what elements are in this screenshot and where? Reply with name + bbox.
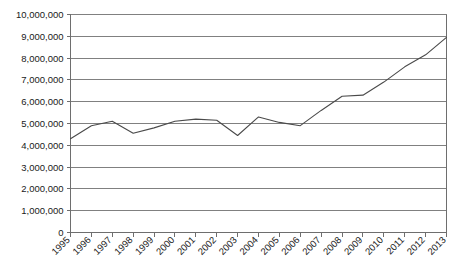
x-axis-tick-label: 2010	[363, 234, 386, 257]
line-chart: 10,000,0009,000,0008,000,0007,000,0006,0…	[0, 0, 461, 273]
x-axis-tick-label: 2009	[342, 234, 365, 257]
x-axis-tick-label: 2011	[384, 234, 406, 256]
x-axis-tick-label: 1999	[133, 234, 156, 257]
y-axis-tick-labels: 10,000,0009,000,0008,000,0007,000,0006,0…	[16, 9, 64, 238]
y-axis-tick-label: 9,000,000	[21, 31, 63, 42]
x-axis-tick-label: 1995	[49, 234, 72, 257]
y-axis-tick-label: 2,000,000	[21, 183, 63, 194]
x-axis-tick-label: 1997	[91, 234, 114, 257]
x-axis-tick-label: 2002	[195, 234, 218, 257]
y-axis-tick-label: 4,000,000	[21, 140, 63, 151]
x-axis-tick-label: 2003	[216, 234, 239, 257]
x-axis-tick-label: 2012	[404, 234, 427, 257]
y-axis-tick-label: 6,000,000	[21, 96, 63, 107]
y-axis-tick-label: 3,000,000	[21, 162, 63, 173]
chart-canvas: 10,000,0009,000,0008,000,0007,000,0006,0…	[0, 0, 461, 273]
x-axis-tick-label: 1996	[70, 234, 93, 257]
gridlines	[67, 15, 447, 233]
x-axis-tick-label: 1998	[112, 234, 135, 257]
x-axis-tick-label: 2008	[321, 234, 344, 257]
x-axis-tick-label: 2001	[175, 234, 198, 257]
y-axis-tick-label: 1,000,000	[21, 205, 63, 216]
y-axis-tick-label: 7,000,000	[21, 74, 63, 85]
y-axis-tick-label: 10,000,000	[16, 9, 64, 20]
y-axis-tick-label: 8,000,000	[21, 53, 63, 64]
y-axis-tick-label: 5,000,000	[21, 118, 63, 129]
x-axis-tick-label: 2000	[154, 234, 177, 257]
x-axis-tick-label: 2006	[279, 234, 302, 257]
x-axis-tick-label: 2013	[425, 234, 448, 257]
x-axis-tick-labels: 1995199619971998199920002001200220032004…	[49, 234, 448, 257]
x-axis-tick-label: 2005	[258, 234, 281, 257]
x-axis-tick-label: 2007	[300, 234, 323, 257]
x-axis-tick-label: 2004	[237, 234, 260, 257]
